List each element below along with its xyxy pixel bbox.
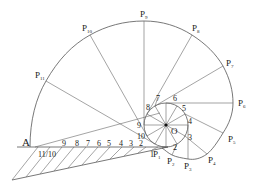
- involute-diagram: A O P1 P2 P3 P4 P5 P6 P7 P8 P9 P10 P11 1…: [0, 0, 254, 188]
- svg-text:P9: P9: [140, 9, 148, 20]
- svg-text:P6: P6: [238, 98, 246, 109]
- svg-text:P3: P3: [184, 161, 192, 172]
- svg-text:8: 8: [75, 139, 79, 148]
- svg-text:1: 1: [150, 150, 154, 159]
- svg-text:9: 9: [137, 121, 141, 130]
- svg-text:P4: P4: [208, 155, 216, 166]
- svg-text:2: 2: [139, 139, 143, 148]
- svg-text:4: 4: [119, 139, 123, 148]
- svg-text:4: 4: [188, 117, 192, 126]
- svg-text:3: 3: [188, 133, 192, 142]
- svg-text:P10: P10: [82, 23, 93, 34]
- svg-text:5: 5: [182, 104, 186, 113]
- circle-division-labels: 1 2 3 4 5 6 7 8 9 10: [137, 94, 192, 159]
- svg-text:7: 7: [156, 94, 160, 103]
- svg-text:P1: P1: [153, 149, 161, 160]
- svg-text:7: 7: [86, 139, 90, 148]
- svg-text:6: 6: [97, 139, 101, 148]
- svg-text:2: 2: [173, 143, 177, 152]
- center-label: O: [171, 126, 178, 136]
- svg-text:5: 5: [107, 139, 111, 148]
- svg-text:8: 8: [146, 103, 150, 112]
- svg-text:P7: P7: [226, 58, 234, 69]
- svg-text:6: 6: [173, 94, 177, 103]
- svg-text:P2: P2: [167, 156, 175, 167]
- svg-text:P11: P11: [35, 70, 45, 81]
- svg-text:11/10: 11/10: [38, 150, 56, 159]
- svg-text:P5: P5: [228, 134, 236, 145]
- svg-text:9: 9: [62, 139, 66, 148]
- svg-text:3: 3: [129, 139, 133, 148]
- lower-diagonal: [12, 147, 168, 180]
- center-dot: [164, 123, 167, 126]
- start-point-label: A: [22, 136, 30, 148]
- svg-text:P8: P8: [192, 23, 200, 34]
